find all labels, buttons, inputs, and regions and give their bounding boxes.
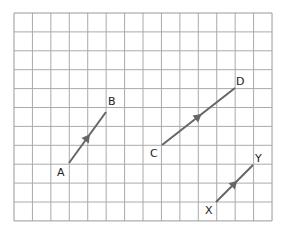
vector-grid-diagram: ABCDXY — [0, 0, 282, 227]
point-label: X — [205, 204, 213, 217]
point-label: C — [150, 147, 158, 160]
arrowhead-icon — [82, 134, 90, 143]
grid — [14, 13, 272, 221]
point-label: A — [57, 166, 65, 179]
vector-cd: CD — [150, 75, 244, 160]
point-label: D — [236, 75, 244, 88]
point-label: Y — [254, 152, 262, 165]
point-label: B — [108, 95, 116, 108]
